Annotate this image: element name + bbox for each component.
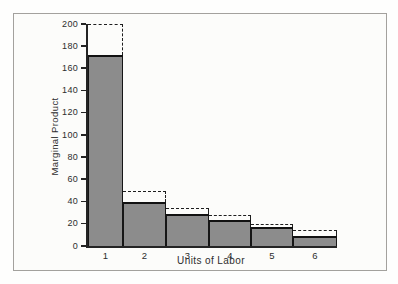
bar-dashed-outline <box>123 191 166 202</box>
y-tick-label: 20 <box>46 218 78 229</box>
y-tick-label: 80 <box>46 152 78 163</box>
y-axis-tick <box>81 23 86 25</box>
bar-dashed-outline <box>293 230 337 236</box>
y-axis-tick <box>81 178 86 180</box>
y-tick-label: 200 <box>46 19 78 30</box>
bar <box>209 220 251 246</box>
y-tick-label: 40 <box>46 196 78 207</box>
bar-dashed-outline <box>166 208 209 214</box>
y-tick-label: 0 <box>46 241 78 252</box>
y-axis-tick <box>81 67 86 69</box>
bar <box>88 55 123 246</box>
figure-frame: Marginal Product 02040608010012014016018… <box>13 13 387 271</box>
bar-dashed-outline <box>251 224 293 227</box>
bar-dashed-outline <box>88 24 123 55</box>
y-axis-tick <box>81 156 86 158</box>
x-tick-label: 6 <box>300 250 330 261</box>
bar <box>251 227 293 246</box>
y-axis-tick <box>81 45 86 47</box>
y-axis-tick <box>81 112 86 114</box>
bar-dashed-outline <box>209 215 251 221</box>
bar <box>123 202 166 246</box>
x-axis-title: Units of Labor <box>136 255 286 266</box>
y-tick-label: 60 <box>46 174 78 185</box>
bar <box>166 214 209 246</box>
y-tick-label: 100 <box>46 130 78 141</box>
y-axis-tick <box>81 223 86 225</box>
bar <box>293 236 337 246</box>
y-tick-label: 180 <box>46 41 78 52</box>
y-axis-tick <box>81 134 86 136</box>
y-axis-tick <box>81 201 86 203</box>
x-tick-label: 1 <box>91 250 121 261</box>
y-tick-label: 160 <box>46 63 78 74</box>
y-tick-label: 140 <box>46 85 78 96</box>
y-axis-tick <box>81 90 86 92</box>
plot-area: 020406080100120140160180200123456 <box>86 24 337 248</box>
y-axis-tick <box>81 245 86 247</box>
y-tick-label: 120 <box>46 107 78 118</box>
